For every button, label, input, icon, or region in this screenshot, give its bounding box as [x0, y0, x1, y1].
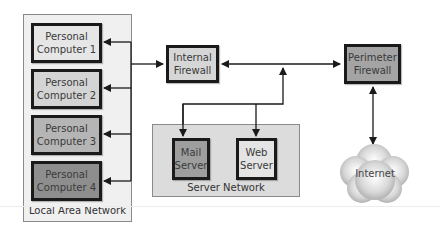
internal-firewall: Internal Firewall [166, 45, 219, 83]
personal-computer-1: Personal Computer 1 [31, 23, 102, 63]
web-server: Web Server [236, 138, 277, 180]
personal-computer-3: Personal Computer 3 [31, 115, 102, 155]
personal-computer-4: Personal Computer 4 [31, 161, 102, 201]
mail-server: Mail Server [172, 138, 210, 180]
internet-label: Internet [345, 168, 405, 179]
perimeter-firewall: Perimeter Firewall [344, 44, 401, 84]
personal-computer-2: Personal Computer 2 [31, 69, 102, 109]
